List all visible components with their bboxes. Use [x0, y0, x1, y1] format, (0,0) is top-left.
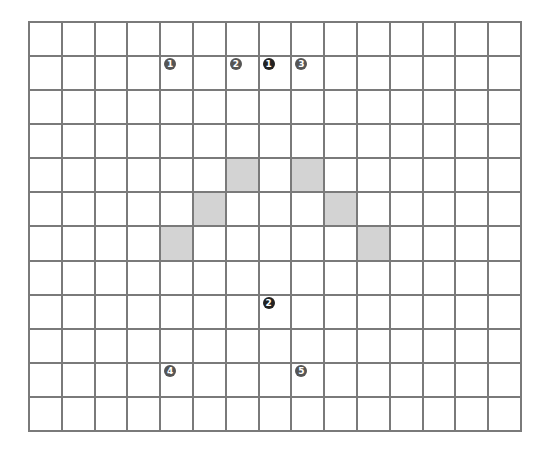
grid-cell[interactable]	[128, 125, 161, 159]
grid-cell[interactable]	[260, 159, 293, 193]
grid-cell[interactable]	[227, 91, 260, 125]
grid-cell[interactable]	[161, 262, 194, 296]
grid-cell[interactable]	[128, 364, 161, 398]
grid-cell[interactable]	[128, 262, 161, 296]
grid-cell[interactable]	[292, 193, 325, 227]
grid-cell[interactable]	[489, 296, 522, 330]
grid-cell[interactable]	[391, 159, 424, 193]
grid-cell[interactable]	[63, 91, 96, 125]
grid-cell[interactable]	[63, 23, 96, 57]
grid-cell[interactable]	[391, 193, 424, 227]
grid-cell[interactable]	[456, 193, 489, 227]
grid-cell[interactable]	[292, 91, 325, 125]
shaded-cell[interactable]	[358, 227, 391, 261]
grid-cell[interactable]	[456, 57, 489, 91]
grid-cell[interactable]	[161, 296, 194, 330]
grid-cell[interactable]	[260, 23, 293, 57]
grid-cell[interactable]	[63, 398, 96, 432]
grid-cell[interactable]	[63, 193, 96, 227]
grid-cell[interactable]	[456, 91, 489, 125]
grid-cell[interactable]	[489, 398, 522, 432]
grid-cell[interactable]	[260, 398, 293, 432]
grid-cell[interactable]	[292, 296, 325, 330]
grid-cell[interactable]	[194, 330, 227, 364]
grid-cell[interactable]	[456, 398, 489, 432]
grid-cell[interactable]	[358, 364, 391, 398]
grid-cell[interactable]	[30, 262, 63, 296]
grid-cell[interactable]	[325, 227, 358, 261]
grid-cell[interactable]	[358, 159, 391, 193]
grid-cell[interactable]	[391, 364, 424, 398]
grid-cell[interactable]	[424, 364, 457, 398]
grid-cell[interactable]	[292, 262, 325, 296]
grid-cell[interactable]	[128, 193, 161, 227]
grid-cell[interactable]	[128, 23, 161, 57]
grid-cell[interactable]	[358, 296, 391, 330]
grid-cell[interactable]	[96, 398, 129, 432]
grid-cell[interactable]	[260, 364, 293, 398]
grid-cell[interactable]	[358, 125, 391, 159]
grid-cell[interactable]	[128, 57, 161, 91]
grid-cell[interactable]	[260, 330, 293, 364]
grid-cell[interactable]	[358, 57, 391, 91]
shaded-cell[interactable]	[325, 193, 358, 227]
grid-cell[interactable]	[325, 23, 358, 57]
grid-cell[interactable]	[227, 364, 260, 398]
grid-cell[interactable]	[63, 296, 96, 330]
grid-cell[interactable]	[292, 227, 325, 261]
grid-cell[interactable]	[30, 159, 63, 193]
grid-cell[interactable]: 5	[292, 364, 325, 398]
shaded-cell[interactable]	[227, 159, 260, 193]
grid-cell[interactable]	[489, 193, 522, 227]
grid-cell[interactable]	[391, 125, 424, 159]
grid-cell[interactable]	[30, 330, 63, 364]
grid-cell[interactable]	[456, 262, 489, 296]
grid-cell[interactable]	[489, 23, 522, 57]
grid-cell[interactable]	[194, 262, 227, 296]
grid-cell[interactable]	[161, 125, 194, 159]
grid-cell[interactable]	[63, 227, 96, 261]
grid-cell[interactable]	[128, 159, 161, 193]
grid-cell[interactable]	[424, 262, 457, 296]
grid-cell[interactable]	[391, 227, 424, 261]
grid-cell[interactable]	[391, 330, 424, 364]
grid-cell[interactable]	[227, 262, 260, 296]
grid-cell[interactable]	[292, 125, 325, 159]
grid-cell[interactable]	[424, 125, 457, 159]
grid-cell[interactable]	[358, 398, 391, 432]
grid-cell[interactable]	[161, 330, 194, 364]
grid-cell[interactable]	[227, 296, 260, 330]
grid-cell[interactable]	[161, 398, 194, 432]
grid-cell[interactable]	[96, 296, 129, 330]
grid-cell[interactable]	[161, 193, 194, 227]
grid-cell[interactable]	[128, 227, 161, 261]
grid-cell[interactable]	[489, 57, 522, 91]
grid-cell[interactable]	[424, 23, 457, 57]
grid-cell[interactable]	[161, 91, 194, 125]
grid-cell[interactable]	[30, 364, 63, 398]
grid-cell[interactable]	[489, 227, 522, 261]
grid-cell[interactable]	[96, 330, 129, 364]
grid-cell[interactable]	[30, 91, 63, 125]
grid-cell[interactable]	[391, 296, 424, 330]
grid-cell[interactable]	[489, 330, 522, 364]
grid-cell[interactable]: 2	[260, 296, 293, 330]
grid-cell[interactable]	[424, 296, 457, 330]
grid-cell[interactable]	[63, 262, 96, 296]
grid-cell[interactable]	[325, 262, 358, 296]
grid-cell[interactable]	[424, 193, 457, 227]
grid-cell[interactable]	[63, 159, 96, 193]
grid-cell[interactable]	[96, 125, 129, 159]
grid-cell[interactable]	[227, 125, 260, 159]
grid-cell[interactable]	[128, 296, 161, 330]
grid-cell[interactable]	[391, 262, 424, 296]
grid-cell[interactable]	[325, 364, 358, 398]
grid-cell[interactable]	[194, 227, 227, 261]
grid-cell[interactable]	[260, 91, 293, 125]
grid-cell[interactable]: 3	[292, 57, 325, 91]
grid-cell[interactable]	[456, 125, 489, 159]
grid-cell[interactable]	[30, 227, 63, 261]
grid-cell[interactable]	[358, 262, 391, 296]
grid-cell[interactable]	[194, 398, 227, 432]
grid-cell[interactable]	[456, 23, 489, 57]
